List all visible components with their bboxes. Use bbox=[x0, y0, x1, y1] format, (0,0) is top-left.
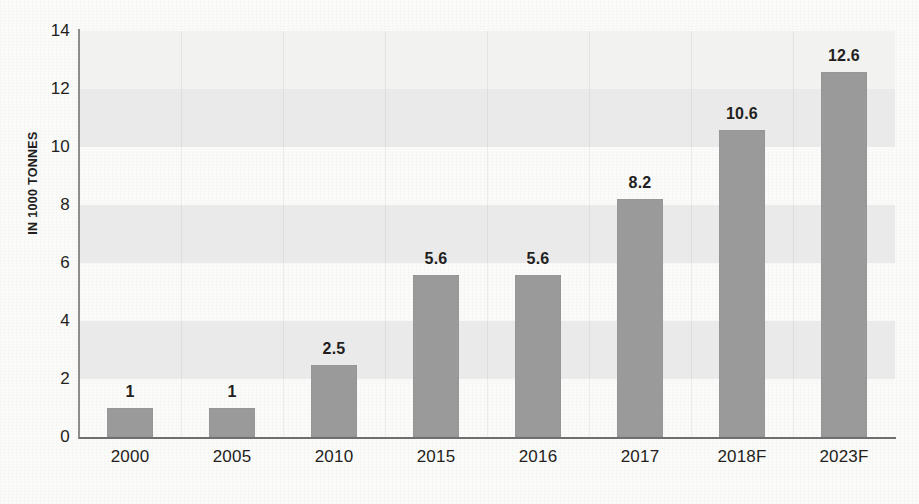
chart-page: 02468101214 IN 1000 TONNES 112.55.65.68.… bbox=[0, 0, 919, 504]
x-axis-category-label: 2015 bbox=[381, 447, 491, 467]
x-axis-category-label: 2005 bbox=[177, 447, 287, 467]
y-axis-title: IN 1000 TONNES bbox=[26, 88, 40, 278]
x-axis-category-labels: 2000200520102015201620172018F2023F bbox=[79, 0, 895, 504]
y-axis-tick-label: 4 bbox=[8, 311, 70, 331]
y-axis-tick-label: 0 bbox=[8, 427, 70, 447]
x-axis-category-label: 2023F bbox=[789, 447, 899, 467]
x-axis-category-label: 2010 bbox=[279, 447, 389, 467]
y-axis-tick-label: 2 bbox=[8, 369, 70, 389]
x-axis-category-label: 2000 bbox=[75, 447, 185, 467]
x-axis-category-label: 2018F bbox=[687, 447, 797, 467]
y-axis-tick-label: 14 bbox=[8, 21, 70, 41]
x-axis-category-label: 2017 bbox=[585, 447, 695, 467]
x-axis-category-label: 2016 bbox=[483, 447, 593, 467]
